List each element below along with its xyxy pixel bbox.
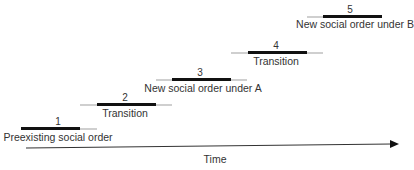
time-axis-label: Time [204,153,227,165]
